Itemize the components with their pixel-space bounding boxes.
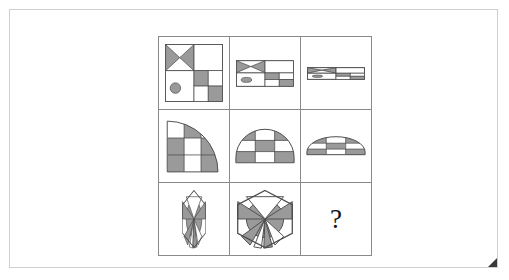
matrix-cell-r3c1[interactable] bbox=[159, 183, 230, 256]
figure-square-quadrants-full bbox=[165, 44, 223, 102]
matrix-cell-r1c3[interactable] bbox=[301, 37, 372, 110]
matrix-cell-r2c3[interactable] bbox=[301, 110, 372, 183]
matrix-cell-r2c1[interactable] bbox=[159, 110, 230, 183]
matrix-cell-r3c3-answer[interactable]: ? bbox=[301, 183, 372, 256]
matrix-grid: ? bbox=[158, 36, 372, 256]
figure-hexagon-rays-narrow bbox=[181, 188, 207, 250]
matrix-cell-r1c1[interactable] bbox=[159, 37, 230, 110]
question-mark-label: ? bbox=[330, 206, 342, 233]
figure-square-quadrants-squashed bbox=[236, 60, 294, 87]
matrix-cell-r2c2[interactable] bbox=[230, 110, 301, 183]
figure-square-quadrants-strip bbox=[307, 67, 365, 80]
figure-flat-dome-checker bbox=[305, 136, 367, 156]
page-corner-fold-icon bbox=[488, 258, 497, 267]
page-frame: ? bbox=[9, 9, 498, 268]
figure-half-dome-checker bbox=[234, 128, 296, 164]
matrix-cell-r1c2[interactable] bbox=[230, 37, 301, 110]
figure-hexagon-rays-full bbox=[234, 188, 296, 250]
matrix-cell-r3c2[interactable] bbox=[230, 183, 301, 256]
figure-quarter-circle-checker bbox=[166, 120, 222, 173]
